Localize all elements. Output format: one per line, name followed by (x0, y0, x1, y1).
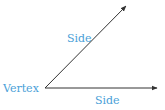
upper-ray (45, 6, 126, 88)
side-lower-label: Side (95, 94, 120, 107)
vertex-label: Vertex (2, 82, 40, 95)
side-upper-label: Side (67, 32, 92, 45)
angle-diagram: Vertex Side Side (0, 0, 165, 110)
